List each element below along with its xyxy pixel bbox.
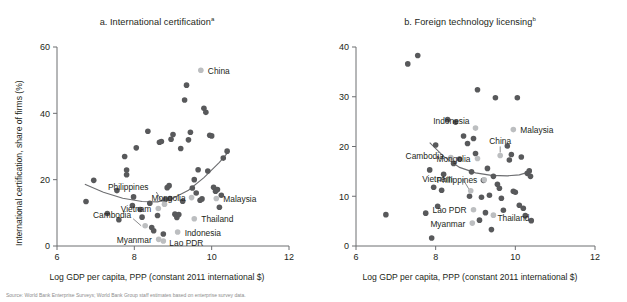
svg-b-ytick: 40 [339,42,349,52]
svg-a-xtick: 8 [132,252,137,262]
data-point [193,190,199,196]
data-point [493,95,499,101]
highlighted-data-point-indonesia [473,125,479,131]
data-point [439,187,445,193]
data-point [209,133,215,139]
svg-a-xtick: 6 [54,252,59,262]
data-point [461,133,467,139]
svg-a-ytick: 20 [40,175,50,185]
data-point [431,184,437,190]
data-point [499,195,505,201]
svg-b-ytick: 20 [339,142,349,152]
highlighted-data-point-china [198,67,204,73]
point-label-china: China [208,66,230,76]
data-point [423,210,429,216]
point-label-lao-pdr: Lao PDR [169,238,203,248]
data-point [195,167,201,173]
highlighted-data-point-philippines [481,177,487,183]
highlighted-data-point-lao-pdr [161,238,167,244]
data-point [469,169,475,175]
data-point [124,167,130,173]
svg-b-ytick: 10 [339,192,349,202]
data-point [471,136,477,142]
svg-a-ytick: 40 [40,109,50,119]
svg-b-xtick: 6 [353,252,358,262]
svg-a-xtick: 10 [207,252,217,262]
point-label-malaysia: Malaysia [223,194,256,204]
data-point [519,154,525,160]
highlighted-data-point-myanmar [470,220,476,226]
highlighted-data-point-thailand [191,216,197,222]
data-point [131,194,137,200]
data-point [176,212,182,218]
figure-container: a. International certificationa Internat… [0,0,627,302]
data-point [151,228,157,234]
data-point [186,137,192,143]
svg-b-ytick: 0 [344,241,349,251]
data-point [383,212,389,218]
data-point [465,141,471,147]
data-point [473,151,479,157]
data-point [497,185,503,191]
highlighted-data-point-thailand [491,212,497,218]
data-point [139,214,145,220]
highlighted-data-point-malaysia [214,196,220,202]
point-label-philippines: Philippines [108,182,149,192]
data-point [528,174,534,180]
point-label-indonesia: Indonesia [433,116,470,126]
data-point [83,199,89,205]
panel-a-international-certification: a. International certificationa Internat… [0,0,314,302]
data-point [485,166,491,172]
data-point [122,154,128,160]
data-point [429,235,435,241]
data-point [217,204,223,210]
point-label-mongolia: Mongolia [436,154,470,164]
data-point [433,142,439,148]
data-point [182,97,188,103]
data-point [91,178,97,184]
data-point [521,205,527,211]
data-point [215,187,221,193]
highlighted-data-point-indonesia [175,229,181,235]
panel-b-plot: 010203040681012IndonesiaMalaysiaChinaCam… [313,0,627,302]
svg-a-ytick: 0 [45,241,50,251]
data-point [491,174,497,180]
data-point [161,231,167,237]
svg-b-xtick: 8 [433,252,438,262]
point-label-myanmar: Myanmar [430,219,465,229]
data-point [475,87,481,93]
highlighted-data-point-vietnam [156,206,162,212]
data-point [526,168,532,174]
data-point [190,185,196,191]
highlighted-data-point-mongolia [475,156,481,162]
data-point [145,128,151,134]
data-point [427,167,433,173]
data-point [159,139,165,145]
data-point [513,189,519,195]
svg-a-ytick: 60 [40,42,50,52]
data-point [467,193,473,199]
data-point [515,95,521,101]
data-point [191,177,197,183]
point-label-myanmar: Myanmar [117,235,152,245]
data-point [507,157,513,163]
data-point [184,82,190,88]
point-label-lao-pdr: Lao PDR [433,205,467,215]
svg-b-ytick: 30 [339,92,349,102]
data-point [220,155,226,161]
data-point [133,145,139,151]
point-label-china: China [489,136,511,146]
data-point [166,183,172,189]
data-point [501,207,507,213]
point-label-malaysia: Malaysia [520,125,553,135]
point-label-cambodia: Cambodia [93,210,132,220]
data-point [509,152,515,158]
data-point [199,196,205,202]
svg-b-xtick: 10 [510,252,520,262]
label-leader-line [133,219,141,226]
data-point [170,132,176,138]
data-point [205,168,211,174]
data-point [155,213,161,219]
highlighted-data-point-mongolia [189,195,195,201]
data-point [178,146,184,152]
